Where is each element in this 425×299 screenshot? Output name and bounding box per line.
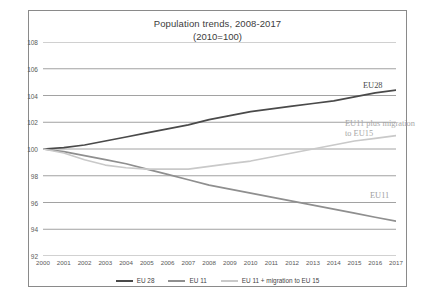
legend-label: EU 11 (189, 277, 206, 284)
x-axis-tick-label: 2001 (57, 259, 71, 266)
x-axis-tick-label: 2006 (161, 259, 175, 266)
y-axis-tick-label: 94 (18, 226, 38, 233)
legend-item-2[interactable]: EU 11 + migration to EU 15 (221, 277, 320, 284)
y-axis-tick-label: 108 (18, 39, 38, 46)
y-axis-tick-label: 100 (18, 146, 38, 153)
plot-svg (43, 42, 396, 256)
x-axis-tick-label: 2009 (223, 259, 237, 266)
x-axis-tick-label: 2017 (389, 259, 403, 266)
x-axis-tick-label: 2005 (140, 259, 154, 266)
migration-series-label: EU11 plus migration to EU15 (345, 119, 415, 139)
series-line-1 (43, 149, 396, 221)
eu28-series-label: EU28 (363, 81, 383, 90)
chart-legend: EU 28EU 11EU 11 + migration to EU 15 (29, 277, 406, 284)
x-axis-tick-label: 2014 (327, 259, 341, 266)
migration-series-label-line1: EU11 plus migration (345, 119, 415, 129)
y-axis-tick-label: 102 (18, 119, 38, 126)
legend-swatch-icon (168, 280, 185, 282)
y-axis-tick-label: 104 (18, 92, 38, 99)
legend-item-0[interactable]: EU 28 (116, 277, 155, 284)
x-axis-tick-label: 2015 (348, 259, 362, 266)
x-axis-tick-label: 2003 (98, 259, 112, 266)
migration-series-label-line2: to EU15 (345, 129, 415, 139)
legend-item-1[interactable]: EU 11 (168, 277, 206, 284)
x-axis-tick-label: 2012 (285, 259, 299, 266)
y-axis-tick-label: 96 (18, 199, 38, 206)
x-axis-tick-label: 2002 (78, 259, 92, 266)
legend-label: EU 11 + migration to EU 15 (242, 277, 320, 284)
y-axis-tick-label: 98 (18, 172, 38, 179)
x-axis-tick-label: 2007 (181, 259, 195, 266)
x-axis-tick-label: 2011 (265, 259, 278, 266)
legend-swatch-icon (116, 280, 133, 282)
y-axis-tick-label: 92 (18, 253, 38, 260)
x-axis-tick-label: 2008 (202, 259, 216, 266)
plot-area (43, 42, 396, 256)
series-line-2 (43, 136, 396, 169)
y-axis-tick-label: 106 (18, 65, 38, 72)
legend-label: EU 28 (137, 277, 155, 284)
x-axis-tick-label: 2004 (119, 259, 133, 266)
eu11-series-label: EU11 (370, 191, 389, 200)
x-axis-tick-label: 2010 (244, 259, 258, 266)
x-axis-tick-label: 2013 (306, 259, 320, 266)
chart-container: Population trends, 2008-2017 (2010=100) … (28, 10, 407, 287)
x-axis-tick-label: 2000 (36, 259, 50, 266)
x-axis-tick-label: 2016 (368, 259, 382, 266)
series-line-0 (43, 90, 396, 149)
x-axis: 2000200120022003200420052006200720082009… (43, 259, 396, 271)
legend-swatch-icon (221, 280, 238, 282)
chart-title: Population trends, 2008-2017 (29, 18, 406, 30)
